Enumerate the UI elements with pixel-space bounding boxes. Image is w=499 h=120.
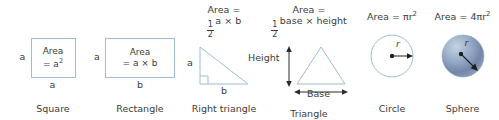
triangle-formula-rest: base × height <box>280 15 347 26</box>
circle-formula: Area = πr2 <box>367 10 417 22</box>
figure-square: a Area = a2 a Square <box>10 0 96 120</box>
square-area-word: Area <box>43 46 64 56</box>
rectangle-shape: Area = a × b <box>105 38 175 78</box>
rectangle-side-label-left: a <box>94 51 100 62</box>
circle-formula-exponent: 2 <box>413 10 417 18</box>
circle-shape <box>369 33 415 79</box>
geometry-formula-diagram: a Area = a2 a Square a Area = a × b b Re… <box>0 0 499 120</box>
sphere-shape-area: r <box>440 33 486 79</box>
triangle-fraction: 1 2 <box>271 21 278 39</box>
right-triangle-formula-rest: a × b <box>215 15 241 26</box>
square-shape-area: a Area = a2 a <box>31 38 76 78</box>
rectangle-area-expr: = a × b <box>123 58 158 68</box>
figure-rectangle: a Area = a × b b Rectangle <box>96 0 184 120</box>
figure-triangle: Area = 1 2 base × height Height Base Tri… <box>260 0 358 120</box>
right-triangle-shape <box>197 45 251 87</box>
right-triangle-formula: Area = 1 2 a × b <box>207 4 241 39</box>
caption-circle: Circle <box>356 103 428 114</box>
right-triangle-frac-denominator: 2 <box>208 31 213 39</box>
sphere-formula-exponent: 2 <box>486 10 490 18</box>
triangle-formula-line1: Area = <box>293 4 326 15</box>
square-side-label-left: a <box>20 51 26 62</box>
circle-shape-area: r <box>369 33 415 79</box>
circle-formula-text: Area = πr <box>367 11 413 22</box>
right-triangle-formula-line1: Area = <box>208 4 241 15</box>
square-area-formula: Area = a2 <box>43 46 64 71</box>
sphere-formula: Area = 4πr2 <box>435 10 491 22</box>
figure-circle: Area = πr2 r Circle <box>356 0 428 120</box>
rectangle-shape-area: a Area = a × b b <box>105 38 175 78</box>
rectangle-area-word: Area <box>130 47 151 57</box>
sphere-formula-text: Area = 4πr <box>435 11 487 22</box>
right-triangle-side-label-left: a <box>187 57 193 68</box>
triangle-formula: Area = 1 2 base × height <box>271 4 347 39</box>
caption-square: Square <box>10 103 96 114</box>
caption-rectangle: Rectangle <box>96 103 184 114</box>
circle-radius-label: r <box>396 38 400 49</box>
sphere-radius-label: r <box>465 37 469 48</box>
figure-sphere: Area = 4πr2 r Sphere <box>426 0 499 120</box>
caption-sphere: Sphere <box>426 103 499 114</box>
square-shape: Area = a2 <box>31 38 76 78</box>
caption-right-triangle: Right triangle <box>184 103 264 114</box>
sphere-shape <box>440 33 486 79</box>
triangle-shape-area: Height Base <box>261 44 357 102</box>
rectangle-side-label-bottom: b <box>137 79 143 90</box>
square-side-label-bottom: a <box>50 79 56 90</box>
square-area-expr: = a <box>43 59 59 69</box>
right-triangle-shape-area: a b <box>197 45 251 87</box>
triangle-frac-denominator: 2 <box>272 31 277 39</box>
right-triangle-side-label-bottom: b <box>221 85 227 96</box>
square-area-exponent: 2 <box>59 57 63 65</box>
rectangle-area-formula: Area = a × b <box>123 47 158 70</box>
right-triangle-fraction: 1 2 <box>207 21 214 39</box>
